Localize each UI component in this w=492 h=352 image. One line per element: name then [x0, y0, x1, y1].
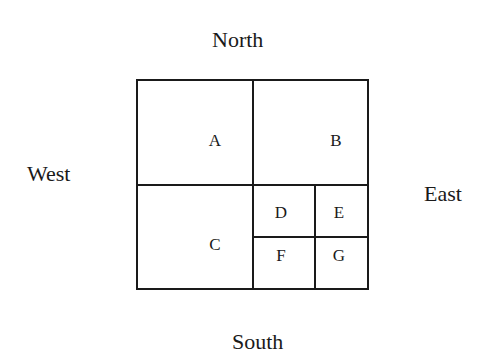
main-horizontal-divider — [138, 184, 367, 186]
region-e-label: E — [334, 204, 344, 221]
region-f-label: F — [276, 247, 285, 264]
region-c-label: C — [209, 236, 220, 253]
region-b-label: B — [330, 132, 341, 149]
west-label: West — [27, 163, 70, 185]
inner-horizontal-divider — [252, 236, 367, 238]
region-d-label: D — [275, 204, 287, 221]
east-label: East — [424, 183, 462, 205]
north-label: North — [212, 29, 263, 51]
south-label: South — [232, 331, 283, 352]
region-a-label: A — [209, 132, 221, 149]
region-g-label: G — [333, 247, 345, 264]
quadrant-grid: A B C D E F G — [136, 79, 369, 290]
